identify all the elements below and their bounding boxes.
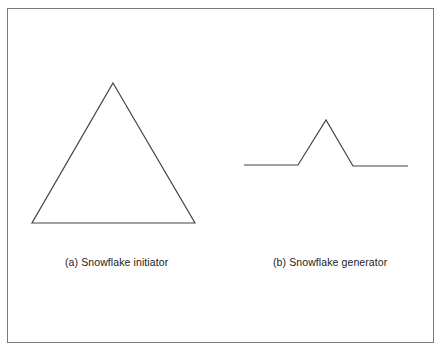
diagram-canvas (0, 0, 443, 352)
snowflake-generator-polyline (244, 120, 408, 166)
initiator-caption: (a) Snowflake initiator (65, 256, 168, 268)
generator-caption: (b) Snowflake generator (273, 256, 387, 268)
snowflake-initiator-triangle (32, 83, 195, 223)
